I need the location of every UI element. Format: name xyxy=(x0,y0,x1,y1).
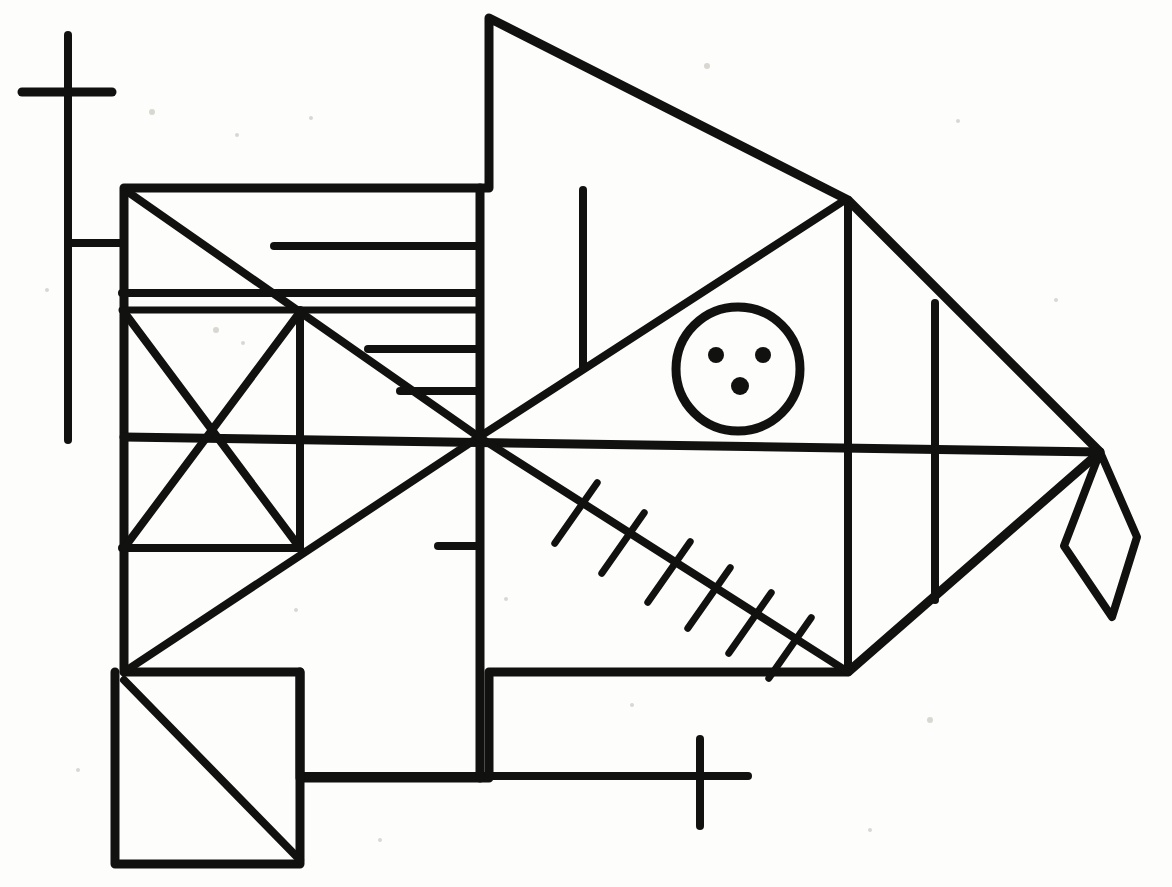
drawing-canvas: Angular line drawing of a fish built fro… xyxy=(0,0,1172,887)
paper-speck xyxy=(1054,298,1058,302)
tail-x-box-group xyxy=(122,310,300,548)
paper-speck xyxy=(378,838,382,842)
body-outline-group xyxy=(124,18,1100,778)
tail-lower-box-group xyxy=(115,672,300,864)
paper-speck xyxy=(630,703,634,707)
eye-dot-right xyxy=(755,347,771,363)
paper-speck xyxy=(241,341,245,345)
paper-speck xyxy=(704,63,710,69)
registration-mark-top-left xyxy=(22,35,124,440)
fish-figure xyxy=(0,0,1172,887)
body-outline xyxy=(124,18,1100,778)
paper-speck xyxy=(45,288,49,292)
paper-speck xyxy=(504,597,508,601)
paper-speck xyxy=(309,116,313,120)
paper-speck xyxy=(76,768,80,772)
paper-speck xyxy=(927,717,933,723)
lower-body-diagonal-spine xyxy=(479,437,848,672)
paper-speck xyxy=(235,133,239,137)
paper-speck xyxy=(868,828,872,832)
paper-speck xyxy=(294,608,298,612)
body-diagonals-group xyxy=(479,200,848,672)
eye-dot-bottom xyxy=(731,377,749,395)
eye-dot-left xyxy=(708,347,724,363)
tail-lower-box-diagonal xyxy=(124,680,300,860)
eye-group xyxy=(676,307,800,431)
eye-disc xyxy=(676,307,800,431)
paper-speck xyxy=(956,119,960,123)
paper-speck xyxy=(149,109,155,115)
horizontal-midline xyxy=(124,437,1100,452)
paper-speck xyxy=(213,327,219,333)
